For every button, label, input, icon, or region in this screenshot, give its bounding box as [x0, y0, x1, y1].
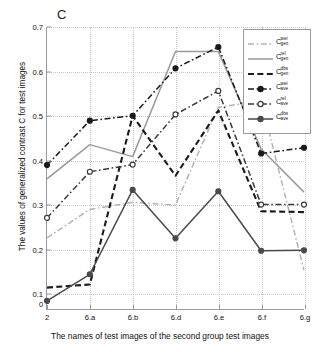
legend-item-C_ave^wei[interactable]: Cweiave [247, 79, 307, 94]
y-tick-label: 0.2 [32, 245, 43, 254]
legend-item-C_gen^rel[interactable]: Crelgen [247, 49, 307, 64]
legend-item-C_gen^wei[interactable]: Cweigen [247, 34, 307, 49]
data-point [45, 298, 50, 303]
y-tick-mark [47, 116, 51, 117]
legend-swatch [247, 111, 274, 123]
y-tick-mark [47, 71, 51, 72]
panel-letter: C [57, 8, 66, 21]
data-point [216, 44, 221, 49]
legend-swatch [247, 51, 274, 63]
data-point [259, 202, 264, 207]
x-tick-label: 6.f [258, 313, 266, 322]
data-point [173, 236, 178, 241]
y-tick-mark [47, 160, 51, 161]
data-point [301, 145, 306, 150]
y-tick-mark [47, 249, 51, 250]
x-tick-label: 6.a [85, 313, 96, 322]
x-tick-mark [262, 305, 263, 309]
legend: CweigenCrelgenCdbsgenCweiaveCrelaveCdbsa… [243, 29, 311, 134]
series-C_gen^dbs [47, 110, 304, 287]
y-tick-label: 0.4 [32, 156, 43, 165]
data-point [87, 118, 92, 123]
legend-swatch [247, 96, 274, 108]
x-tick-label: 6.b [128, 313, 139, 322]
series-line [47, 110, 304, 287]
data-point [87, 169, 92, 174]
data-point [130, 113, 135, 118]
legend-label: Crelave [276, 98, 281, 105]
x-tick-mark [90, 305, 91, 309]
y-tick-mark [47, 205, 51, 206]
data-point [45, 163, 50, 168]
x-tick-mark [176, 305, 177, 309]
legend-item-C_ave^dbs[interactable]: Cdbsave [247, 109, 307, 124]
data-point [216, 189, 221, 194]
legend-item-C_ave^rel[interactable]: Crelave [247, 94, 307, 109]
data-point [259, 248, 264, 253]
legend-item-C_gen^dbs[interactable]: Cdbsgen [247, 64, 307, 79]
legend-swatch [247, 66, 274, 78]
chart-figure: C The values of generalized contrast C f… [0, 0, 320, 357]
data-point [301, 248, 306, 253]
origin-label: 0 [39, 300, 43, 309]
data-point [173, 112, 178, 117]
legend-label: Cweiave [276, 83, 281, 90]
x-tick-mark [133, 305, 134, 309]
y-tick-mark [47, 294, 51, 295]
y-tick-label: 0.3 [32, 201, 43, 210]
x-axis-title: The names of test images of the second g… [0, 331, 320, 341]
x-tick-mark [219, 305, 220, 309]
data-point [216, 88, 221, 93]
y-tick-label: 0.6 [32, 67, 43, 76]
data-point [87, 272, 92, 277]
legend-label: Crelgen [276, 53, 281, 60]
data-point [173, 66, 178, 71]
x-tick-label: 6.e [214, 313, 225, 322]
legend-label: Cweigen [276, 38, 281, 45]
data-point [45, 215, 50, 220]
x-tick-label: 6.g [300, 313, 311, 322]
x-tick-label: 6.d [171, 313, 182, 322]
data-point [130, 162, 135, 167]
legend-label: Cdbsave [276, 113, 281, 120]
x-tick-mark [305, 305, 306, 309]
legend-label: Cdbsgen [276, 68, 281, 75]
x-tick-label: 2 [45, 313, 49, 322]
data-point [301, 202, 306, 207]
y-tick-label: 0.1 [32, 290, 43, 299]
y-tick-mark [47, 27, 51, 28]
data-point [259, 151, 264, 156]
legend-swatch [247, 81, 274, 93]
y-axis-title: The values of generalized contrast C for… [18, 47, 27, 267]
x-tick-mark [47, 305, 48, 309]
y-tick-label: 0.5 [32, 112, 43, 121]
legend-swatch [247, 36, 274, 48]
data-point [130, 187, 135, 192]
y-tick-label: 0.7 [32, 23, 43, 32]
